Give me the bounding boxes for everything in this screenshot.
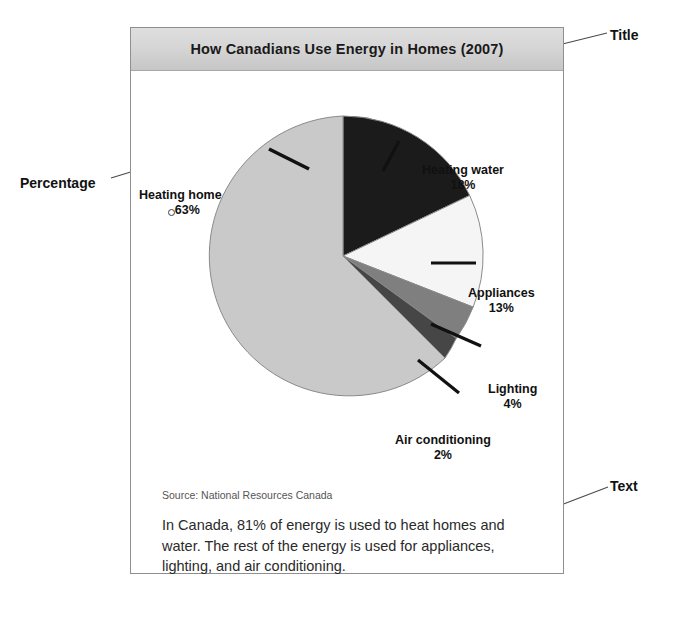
percentage-callout-marker [168, 209, 175, 216]
chart-title: How Canadians Use Energy in Homes (2007) [190, 41, 503, 57]
pie-label-lighting: Lighting 4% [488, 382, 537, 412]
pie-chart-area: Heating home 63% Heating water 18% Appli… [131, 71, 563, 481]
pie-label-heating-home-name: Heating home [139, 188, 222, 202]
pie-label-heating-home-pct: 63% [139, 203, 222, 218]
pie-label-heating-water-pct: 18% [422, 178, 504, 193]
chart-title-band: How Canadians Use Energy in Homes (2007) [131, 28, 563, 71]
pie-label-air-conditioning-name: Air conditioning [395, 433, 491, 447]
pointer-air-conditioning [418, 360, 459, 393]
pie-label-appliances-pct: 13% [468, 301, 535, 316]
pie-chart [131, 71, 563, 481]
source-note: Source: National Resources Canada [162, 489, 332, 501]
callout-label-title: Title [610, 27, 639, 43]
pie-label-heating-water: Heating water 18% [422, 163, 504, 193]
pie-label-appliances-name: Appliances [468, 286, 535, 300]
pie-label-lighting-name: Lighting [488, 382, 537, 396]
callout-label-text: Text [610, 478, 638, 494]
callout-label-percentage: Percentage [20, 175, 95, 191]
pie-label-appliances: Appliances 13% [468, 286, 535, 316]
figure-body-text: In Canada, 81% of energy is used to heat… [162, 515, 534, 577]
pie-label-air-conditioning-pct: 2% [395, 448, 491, 463]
pie-label-heating-water-name: Heating water [422, 163, 504, 177]
pie-label-air-conditioning: Air conditioning 2% [395, 433, 491, 463]
pie-label-heating-home: Heating home 63% [139, 188, 222, 218]
pie-label-lighting-pct: 4% [488, 397, 537, 412]
figure-frame: How Canadians Use Energy in Homes (2007) [130, 27, 564, 574]
